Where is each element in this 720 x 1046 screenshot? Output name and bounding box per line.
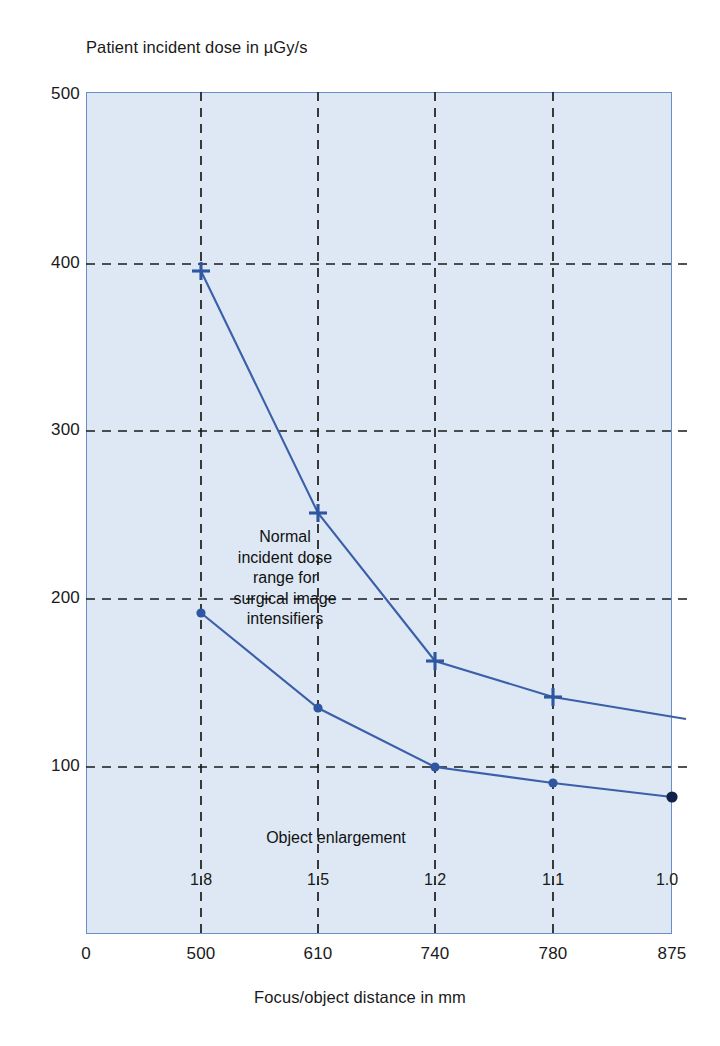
x-tick-label-740: 740: [390, 944, 480, 964]
enlargement-tick-label-1-2: 1.2: [390, 871, 480, 889]
y-tick-label-400: 400: [8, 253, 80, 273]
x-tick-label-875: 875: [627, 944, 717, 964]
y-tick-label-100: 100: [8, 756, 80, 776]
x-tick-label-500: 500: [156, 944, 246, 964]
x-tick-label-610: 610: [273, 944, 363, 964]
y-axis-title: Patient incident dose in µGy/s: [86, 38, 308, 57]
enlargement-tick-label-1-8: 1.8: [156, 871, 246, 889]
chart-figure: Patient incident dose in µGy/s: [0, 0, 720, 1046]
enlargement-tick-label-1-0: 1.0: [622, 871, 712, 889]
x-axis-title: Focus/object distance in mm: [0, 988, 720, 1007]
object-enlargement-label: Object enlargement: [186, 829, 486, 847]
y-tick-label-500: 500: [8, 84, 80, 104]
enlargement-tick-label-1-1: 1.1: [508, 871, 598, 889]
x-tick-label-0: 0: [41, 944, 131, 964]
plot-area: [86, 92, 672, 934]
enlargement-tick-label-1-5: 1.5: [273, 871, 363, 889]
y-tick-label-300: 300: [8, 420, 80, 440]
normal-dose-range-annotation: Normal incident dose range for surgical …: [185, 527, 385, 630]
y-tick-label-200: 200: [8, 588, 80, 608]
x-tick-label-780: 780: [508, 944, 598, 964]
